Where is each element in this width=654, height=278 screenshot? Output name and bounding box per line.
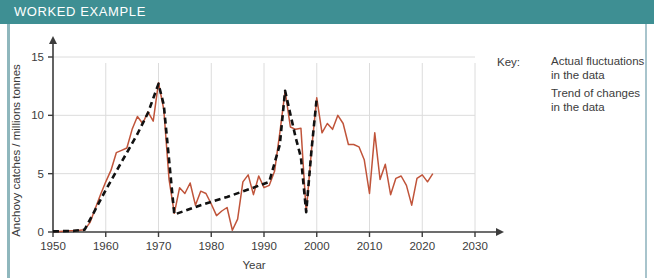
worked-example-figure: WORKED EXAMPLE 0510151950196019701980199… <box>0 0 654 278</box>
x-axis-arrowhead <box>496 228 504 236</box>
legend-actual-line1: Actual fluctuations <box>551 55 644 67</box>
legend-solid-line-swatch <box>523 55 551 61</box>
legend-item-actual: Key: Actual fluctuations in the data <box>497 55 647 82</box>
x-axis-tick-label: 2030 <box>462 240 488 252</box>
legend-key-label: Key: <box>497 55 523 69</box>
x-axis-tick-label: 1980 <box>198 240 224 252</box>
y-axis-tick-label: 0 <box>38 226 44 238</box>
y-axis-tick-label: 15 <box>31 51 44 63</box>
legend-item-trend-label: Trend of changes in the data <box>551 87 640 114</box>
y-axis-tick-label: 5 <box>38 168 44 180</box>
legend-item-actual-label: Actual fluctuations in the data <box>551 55 644 82</box>
x-axis-title: Year <box>242 259 265 271</box>
legend-actual-line2: in the data <box>551 69 605 81</box>
x-axis-tick-label: 2010 <box>357 240 383 252</box>
x-axis-tick-label: 2020 <box>409 240 435 252</box>
y-axis-title: Anchovy catches / millions tonnes <box>10 64 22 237</box>
x-axis-tick-label: 2000 <box>304 240 330 252</box>
y-axis-arrowhead <box>49 36 57 44</box>
y-axis-tick-label: 10 <box>31 109 44 121</box>
x-axis-tick-label: 1960 <box>93 240 119 252</box>
page-title: WORKED EXAMPLE <box>14 4 146 19</box>
x-axis-tick-label: 1950 <box>40 240 66 252</box>
legend-item-trend: Trend of changes in the data <box>497 87 647 114</box>
series-actual-line <box>53 83 433 232</box>
legend-trend-line1: Trend of changes <box>551 87 640 99</box>
legend-dashed-line-swatch <box>523 87 551 93</box>
x-axis-tick-label: 1970 <box>146 240 172 252</box>
legend-spacer <box>497 87 523 88</box>
chart-legend: Key: Actual fluctuations in the data Tre… <box>497 55 647 114</box>
series-trend-line <box>53 84 317 232</box>
x-axis-tick-label: 1990 <box>251 240 277 252</box>
header-bar: WORKED EXAMPLE <box>0 0 654 24</box>
legend-trend-line2: in the data <box>551 101 605 113</box>
